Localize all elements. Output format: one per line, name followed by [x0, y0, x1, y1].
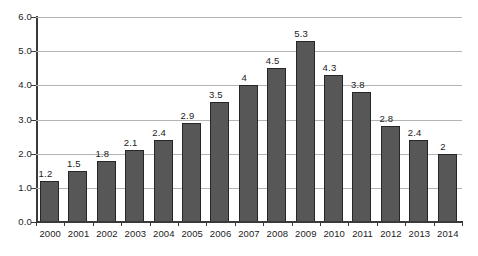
plot-area: 1.21.51.82.12.42.93.544.55.34.33.82.82.4…	[36, 17, 462, 222]
bar-value-label: 4.5	[259, 56, 286, 66]
y-axis-tick-label: 4.0	[6, 80, 32, 90]
x-axis-tick-label: 2011	[348, 228, 376, 240]
x-axis-tick-mark	[64, 223, 65, 226]
bar-value-label: 4	[231, 73, 258, 83]
bar-slot: 4	[235, 17, 263, 222]
x-axis-tick-mark	[434, 223, 435, 226]
x-axis-tick-mark	[405, 223, 406, 226]
x-axis-tick-mark	[121, 223, 122, 226]
bar[interactable]	[125, 150, 144, 222]
bar-value-label: 2	[430, 142, 457, 152]
bar-slot: 5.3	[292, 17, 320, 222]
bar[interactable]	[154, 140, 173, 222]
x-axis-tick-mark	[320, 223, 321, 226]
bar-value-label: 2.1	[117, 138, 144, 148]
bar[interactable]	[239, 85, 258, 222]
bar[interactable]	[182, 123, 201, 222]
x-axis-tick-mark	[462, 223, 463, 226]
x-axis-labels: 2000200120022003200420052006200720082009…	[36, 228, 463, 244]
bar-slot: 1.5	[64, 17, 92, 222]
bar-slot: 2.8	[377, 17, 405, 222]
y-axis-tick-label: 2.0	[6, 149, 32, 159]
x-axis-tick-mark	[292, 223, 293, 226]
bar-slot: 2.1	[121, 17, 149, 222]
bar-value-label: 1.2	[32, 169, 59, 179]
x-axis-tick-label: 2000	[36, 228, 64, 240]
bar-slot: 3.5	[206, 17, 234, 222]
y-axis-tick-label: 5.0	[6, 46, 32, 56]
x-axis-tick-mark	[206, 223, 207, 226]
bar[interactable]	[68, 171, 87, 222]
bar-value-label: 3.8	[344, 80, 371, 90]
bar-value-label: 3.5	[202, 90, 229, 100]
x-axis-tick-label: 2014	[434, 228, 462, 240]
bar-value-label: 2.8	[373, 114, 400, 124]
bar-value-label: 5.3	[288, 29, 315, 39]
y-axis-tick-label: 3.0	[6, 115, 32, 125]
bar[interactable]	[324, 75, 343, 222]
bar-slot: 1.2	[36, 17, 64, 222]
bar-value-label: 2.4	[401, 128, 428, 138]
x-axis-tick-label: 2006	[206, 228, 234, 240]
bar-value-label: 1.5	[60, 159, 87, 169]
x-axis-tick-mark	[36, 223, 37, 226]
x-axis-tick-label: 2008	[263, 228, 291, 240]
bar-value-label: 4.3	[316, 63, 343, 73]
x-axis-tick-label: 2007	[235, 228, 263, 240]
bar-slot: 4.5	[263, 17, 291, 222]
x-axis-tick-mark	[93, 223, 94, 226]
bar[interactable]	[352, 92, 371, 222]
bar-chart: 0.01.02.03.04.05.06.0 1.21.51.82.12.42.9…	[0, 0, 478, 256]
bar-value-label: 1.8	[89, 149, 116, 159]
y-axis-tick-label: 0.0	[6, 217, 32, 227]
bar[interactable]	[97, 161, 116, 223]
bar[interactable]	[296, 41, 315, 222]
bar-value-label: 2.4	[146, 128, 173, 138]
y-axis-labels: 0.01.02.03.04.05.06.0	[2, 0, 32, 256]
bar-value-label: 2.9	[174, 111, 201, 121]
bar[interactable]	[40, 181, 59, 222]
x-axis-tick-label: 2001	[64, 228, 92, 240]
bar[interactable]	[210, 102, 229, 222]
y-axis-tick-label: 1.0	[6, 183, 32, 193]
x-axis-tick-label: 2010	[320, 228, 348, 240]
x-axis-tick-mark	[150, 223, 151, 226]
bar-slot: 4.3	[320, 17, 348, 222]
bar-slot: 2.9	[178, 17, 206, 222]
x-axis-tick-label: 2002	[93, 228, 121, 240]
x-axis-tick-label: 2009	[292, 228, 320, 240]
bar[interactable]	[267, 68, 286, 222]
bar[interactable]	[438, 154, 457, 222]
x-axis-tick-mark	[348, 223, 349, 226]
bar-slot: 1.8	[93, 17, 121, 222]
x-axis-tick-label: 2012	[377, 228, 405, 240]
x-axis-tick-label: 2003	[121, 228, 149, 240]
x-axis-tick-label: 2013	[405, 228, 433, 240]
x-axis-tick-mark	[377, 223, 378, 226]
x-axis-tick-mark	[235, 223, 236, 226]
bar[interactable]	[409, 140, 428, 222]
x-axis-line	[36, 221, 463, 223]
bar-slot: 2.4	[405, 17, 433, 222]
bar[interactable]	[381, 126, 400, 222]
y-axis-tick-label: 6.0	[6, 12, 32, 22]
bar-slot: 2	[434, 17, 462, 222]
x-axis-tick-label: 2005	[178, 228, 206, 240]
x-axis-tick-mark	[263, 223, 264, 226]
x-axis-tick-mark	[178, 223, 179, 226]
x-axis-tick-label: 2004	[150, 228, 178, 240]
